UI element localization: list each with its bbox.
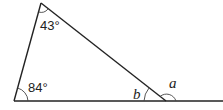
- triangle-hypotenuse: [41, 3, 166, 101]
- angle-label-top: 43°: [40, 18, 60, 33]
- angle-label-a: a: [169, 75, 177, 92]
- bottom-left-angle-arc: [18, 88, 29, 101]
- interior-right-angle-arc: [144, 88, 149, 101]
- angle-label-bottom-left: 84°: [28, 80, 48, 95]
- angle-label-b: b: [133, 86, 141, 103]
- triangle-diagram: 43° 84° b a: [0, 0, 223, 110]
